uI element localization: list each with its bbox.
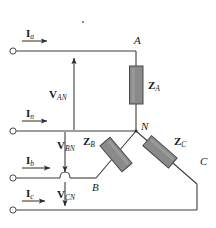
- terminal-b: [10, 175, 16, 181]
- impedance-box-zc-group: [143, 136, 177, 168]
- voltage-label-van: VAN: [49, 89, 67, 102]
- impedance-label-za: ZA: [148, 80, 160, 93]
- voltage-label-van-subscript: AN: [57, 93, 67, 102]
- voltage-label-van-symbol: V: [49, 88, 57, 100]
- terminal-c: [10, 207, 16, 213]
- current-label-in-subscript: n: [30, 112, 34, 121]
- current-label-ib: Ib: [26, 155, 34, 168]
- node-label-c: C: [200, 156, 207, 167]
- impedance-label-za-subscript: A: [155, 84, 160, 93]
- voltage-label-vbn: VBN: [57, 140, 75, 153]
- impedance-box-za: [130, 66, 144, 104]
- voltage-label-vcn-symbol: V: [57, 188, 65, 200]
- circuit-diagram: Ia In Ib Ic VAN VBN VCN ZA ZB ZC A N B C: [0, 0, 216, 228]
- voltage-label-vbn-symbol: V: [57, 139, 65, 151]
- impedance-za-highlight: [132, 68, 135, 102]
- impedance-box-zb: [100, 137, 132, 171]
- impedance-label-zb-subscript: B: [90, 140, 95, 149]
- node-label-b: B: [92, 182, 99, 193]
- impedance-label-zc: ZC: [174, 136, 186, 149]
- terminal-a: [10, 48, 16, 54]
- voltage-label-vcn-subscript: CN: [65, 193, 75, 202]
- impedance-label-zc-subscript: C: [181, 140, 186, 149]
- current-label-ic-subscript: c: [30, 192, 33, 201]
- current-label-ic: Ic: [26, 188, 34, 201]
- voltage-label-vbn-subscript: BN: [65, 144, 75, 153]
- current-label-ib-subscript: b: [30, 159, 34, 168]
- scan-artifact-dot: [82, 21, 84, 23]
- impedance-label-zb: ZB: [83, 136, 95, 149]
- current-label-ia-subscript: a: [30, 32, 34, 41]
- wire-hop-crossover: [60, 172, 70, 178]
- node-label-n: N: [141, 121, 148, 132]
- impedance-box-zc: [143, 136, 177, 168]
- node-label-a: A: [134, 35, 141, 46]
- voltage-label-vcn: VCN: [57, 189, 75, 202]
- current-label-ia: Ia: [26, 28, 34, 41]
- current-label-in: In: [26, 108, 34, 121]
- impedance-box-zb-group: [100, 137, 132, 171]
- terminal-n: [10, 128, 16, 134]
